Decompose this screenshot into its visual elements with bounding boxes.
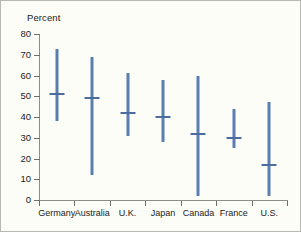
y-axis-tick-label: 30 (1, 132, 31, 143)
y-axis-tick-label: 80 (1, 28, 31, 39)
y-axis-tick-label: 40 (1, 111, 31, 122)
x-axis-tick-label-japan: Japan (151, 208, 176, 218)
y-axis-tick-label: 10 (1, 173, 31, 184)
median-tick-canada (191, 133, 206, 135)
median-tick-germany (49, 93, 64, 95)
median-tick-france (226, 137, 241, 139)
y-axis-tick-label: 60 (1, 70, 31, 81)
y-axis-tick-label: 20 (1, 153, 31, 164)
median-tick-u-s (262, 164, 277, 166)
x-axis-tick (39, 201, 40, 206)
y-axis-title: Percent (27, 12, 60, 23)
y-axis-tick-label: 50 (1, 90, 31, 101)
x-axis-tick (74, 201, 75, 206)
x-axis-tick (181, 201, 182, 206)
y-axis-tick-label: 70 (1, 49, 31, 60)
x-axis-tick-label-france: France (220, 208, 248, 218)
range-bar-japan (162, 80, 165, 142)
x-axis-tick-label-u-s: U.S. (261, 208, 279, 218)
x-axis-tick-label-canada: Canada (183, 208, 215, 218)
range-bar-canada (197, 76, 200, 196)
range-bar-france (232, 109, 235, 148)
x-axis-tick-label-australia: Australia (75, 208, 110, 218)
median-tick-u-k (120, 112, 135, 114)
x-axis-tick-label-germany: Germany (38, 208, 75, 218)
median-tick-australia (85, 97, 100, 99)
range-bar-australia (91, 57, 94, 175)
range-bar-u-s (268, 102, 271, 195)
x-axis-tick (252, 201, 253, 206)
x-axis-tick-label-u-k: U.K. (119, 208, 137, 218)
x-axis-tick (216, 201, 217, 206)
range-bar-germany (55, 49, 58, 122)
median-tick-japan (156, 116, 171, 118)
range-chart: Percent 80706050403020100 GermanyAustral… (0, 0, 301, 232)
x-axis-tick (287, 201, 288, 206)
x-axis-tick (145, 201, 146, 206)
plot-area (39, 34, 287, 200)
x-axis-tick (110, 201, 111, 206)
y-axis-tick-label: 0 (1, 194, 31, 205)
range-bar-u-k (126, 73, 129, 135)
